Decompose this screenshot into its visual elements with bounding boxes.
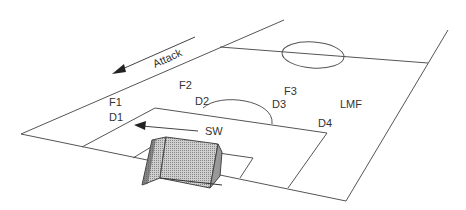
player-d1: D1 (109, 112, 123, 123)
player-d2: D2 (195, 96, 209, 107)
center-circle (281, 40, 345, 70)
player-sw: SW (205, 126, 223, 137)
right-touchline (346, 30, 448, 201)
player-f1: F1 (109, 97, 122, 108)
sweeper-arrow (134, 121, 198, 131)
player-f2: F2 (179, 80, 192, 91)
player-d4: D4 (318, 118, 332, 129)
field-lines (0, 0, 466, 210)
goal-net (142, 137, 222, 188)
player-f3: F3 (284, 86, 297, 97)
player-d3: D3 (272, 99, 286, 110)
player-lmf: LMF (340, 99, 362, 110)
left-touchline (21, 20, 284, 134)
halfway-line (220, 47, 428, 63)
soccer-field-diagram: Attack F1 F2 F3 D1 D2 D3 D4 LMF SW (0, 0, 466, 210)
